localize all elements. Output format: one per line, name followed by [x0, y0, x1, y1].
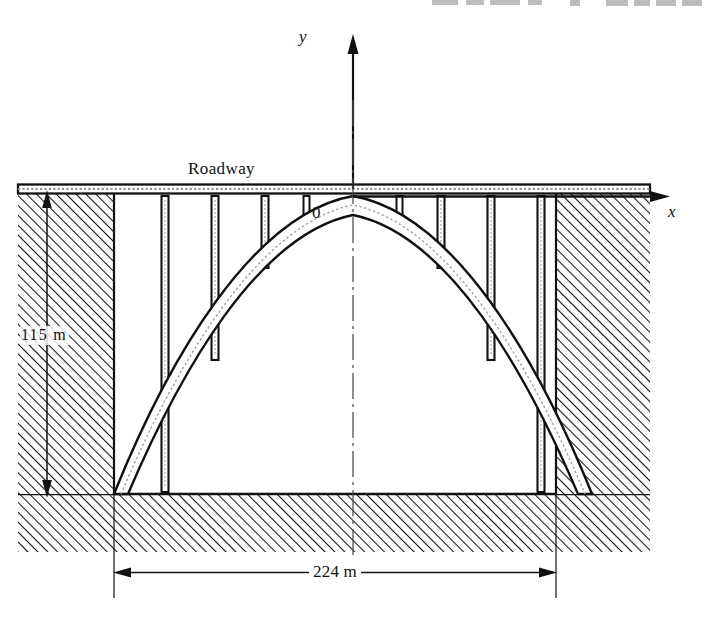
- height-dimension-label: 115 m: [20, 326, 69, 345]
- roadway-deck: [18, 185, 650, 194]
- arrow-right-icon: [650, 191, 670, 202]
- hanger-column: [488, 196, 495, 360]
- arrow-right-icon: [539, 568, 557, 578]
- ground-hatch-fill: [18, 494, 650, 552]
- ground-region: [18, 494, 650, 552]
- arrow-up-icon: [348, 34, 359, 54]
- roadway-label: Roadway: [188, 159, 255, 179]
- hanger-column: [212, 196, 219, 360]
- bridge-diagram-canvas: [0, 0, 706, 630]
- bridge-diagram-figure: Roadway y x 0 115 m 224 m: [0, 0, 706, 630]
- hanger-column: [162, 196, 169, 492]
- hanger-column: [538, 196, 545, 492]
- x-axis-label: x: [668, 202, 676, 222]
- arrow-left-icon: [113, 568, 131, 578]
- y-axis: [348, 34, 359, 560]
- y-axis-label: y: [299, 27, 307, 47]
- span-dimension-label: 224 m: [309, 562, 361, 582]
- origin-label: 0: [312, 203, 321, 223]
